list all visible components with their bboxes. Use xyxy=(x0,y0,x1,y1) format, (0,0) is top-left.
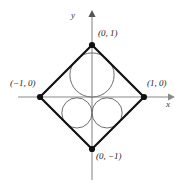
geometry-figure: y x (0, 1) (1, 0) (−1, 0) (0, −1) xyxy=(0,0,185,186)
vertex-dot-bottom xyxy=(89,146,95,152)
figure-canvas xyxy=(0,0,185,186)
vertex-dot-left xyxy=(37,94,43,100)
vertex-dot-top xyxy=(89,42,95,48)
vertex-label-right: (1, 0) xyxy=(147,79,167,88)
vertex-label-bottom: (0, −1) xyxy=(96,152,122,161)
x-axis-label: x xyxy=(166,100,170,109)
y-axis-arrowhead xyxy=(88,10,95,17)
vertex-label-top: (0, 1) xyxy=(98,29,118,38)
y-axis-label: y xyxy=(71,11,75,20)
vertex-label-left: (−1, 0) xyxy=(10,79,36,88)
y-axis xyxy=(88,10,95,180)
vertex-dot-right xyxy=(141,94,147,100)
